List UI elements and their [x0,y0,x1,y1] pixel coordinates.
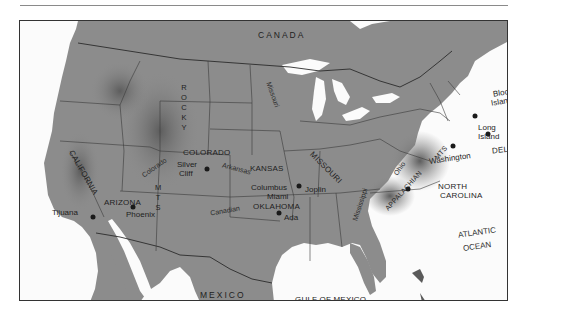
label-north: NORTH [438,183,467,191]
label-site-joplin: Joplin [305,186,326,194]
label-site-tijuana: Tijuana [52,209,78,217]
map-frame: CANADA MEXICO GULF OF MEXICO ATLANTIC OC… [19,20,508,301]
label-mexico: MEXICO [200,291,246,300]
label-colorado: COLORADO [183,149,230,157]
label-site-miami: Miami [267,193,288,201]
page-top-rule [20,5,508,6]
label-site-silver: Silver [177,161,197,169]
label-site-columbus: Columbus [251,184,287,192]
label-site-ada: Ada [284,214,298,222]
label-arizona: ARIZONA [104,199,141,207]
label-site-long: Long [478,124,496,132]
label-gulf-of-mexico: GULF OF MEXICO [295,296,366,301]
label-site-long-island: Island [478,133,499,141]
label-rocky-mts: MTS [154,183,162,213]
label-rocky: ROCKY [180,83,188,133]
label-carolina: CAROLINA [440,192,483,200]
label-site-phoenix: Phoenix [126,211,155,219]
label-site-cliff: Cliff [179,170,193,178]
label-oklahoma: OKLAHOMA [253,203,300,211]
label-canada: CANADA [258,31,305,40]
label-kansas: KANSAS [250,165,284,173]
